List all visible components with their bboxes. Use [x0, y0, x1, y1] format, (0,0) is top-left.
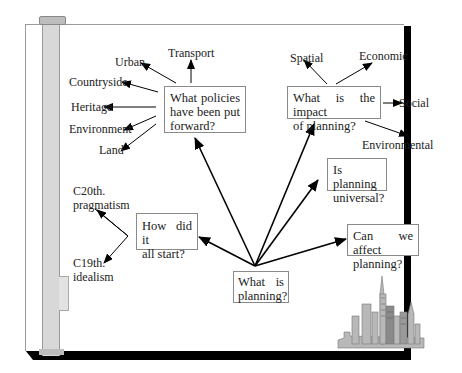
label-social: Social [399, 97, 429, 110]
question-impact: What is the impact of planning? [287, 86, 381, 119]
question-what-is-planning: What is planning? [233, 271, 289, 303]
label-economic: Economic [359, 50, 408, 63]
question-start: How did it all start? [136, 213, 198, 250]
question-affect: Can we affect planning? [347, 224, 419, 256]
label-spatial: Spatial [290, 52, 323, 65]
label-c19th-idealism: C19th. idealism [73, 256, 114, 284]
arrow-to-affect [255, 239, 346, 266]
label-transport: Transport [168, 47, 214, 60]
label-environmental: Environmental [362, 139, 433, 152]
label-heritage: Heritage [71, 101, 112, 114]
question-policies: What policies have been put forward? [164, 86, 246, 133]
label-c20th-pragmatism: C20th. pragmatism [73, 184, 130, 212]
arrow-to-start [199, 237, 255, 266]
city-skyline-icon [336, 272, 426, 352]
question-universal: Is planning universal? [327, 158, 387, 191]
label-environment: Environment [69, 123, 132, 136]
arrow-to-impact [255, 124, 314, 266]
arrow-to-universal [255, 180, 318, 266]
arrow-to-policies [195, 138, 255, 266]
label-countryside: Countryside [69, 76, 128, 89]
label-urban: Urban [115, 56, 145, 69]
label-land: Land [99, 144, 124, 157]
